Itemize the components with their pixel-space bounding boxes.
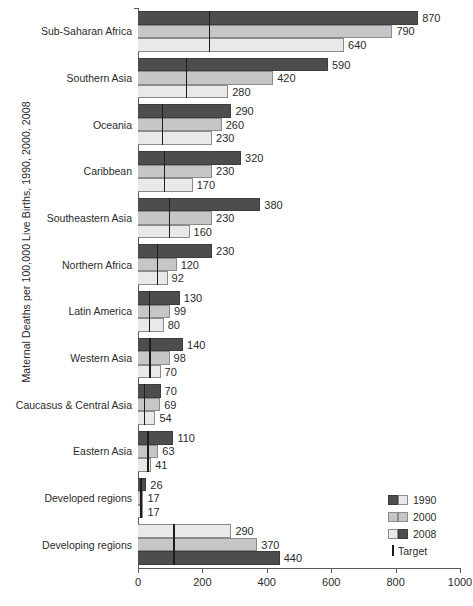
bar-2008 — [138, 225, 190, 239]
bar-row: 140 — [138, 338, 460, 352]
bar-value-label: 54 — [159, 412, 171, 424]
bar-value-label: 260 — [226, 119, 244, 131]
bar-row: 26 — [138, 478, 460, 492]
x-axis-tick — [267, 568, 268, 573]
bar-1990 — [138, 198, 260, 212]
bar-1990 — [138, 244, 212, 258]
bar-value-label: 63 — [162, 445, 174, 457]
bar-2000 — [138, 538, 257, 552]
bar-row: 99 — [138, 305, 460, 319]
bar-row: 170 — [138, 178, 460, 192]
bar-value-label: 590 — [332, 59, 350, 71]
bar-group: Southeastern Asia380230160 — [138, 198, 460, 239]
bar-value-label: 280 — [232, 86, 250, 98]
x-axis-tick-label: 1000 — [448, 576, 472, 588]
bar-value-label: 230 — [216, 245, 234, 257]
bar-1990 — [138, 151, 241, 165]
bar-1990 — [138, 11, 418, 25]
legend-swatch-1990-dark — [388, 495, 398, 505]
target-line — [140, 478, 142, 519]
bar-value-label: 130 — [184, 292, 202, 304]
legend-item-1990: 1990 — [388, 492, 436, 507]
bar-value-label: 110 — [177, 432, 195, 444]
bar-value-label: 440 — [284, 552, 302, 564]
legend-swatch-2000-b — [398, 512, 408, 522]
bar-group: Sub-Saharan Africa870790640 — [138, 11, 460, 52]
bar-row: 870 — [138, 11, 460, 25]
bar-value-label: 640 — [348, 39, 366, 51]
category-label: Eastern Asia — [73, 445, 132, 457]
legend: 1990 2000 2008 Target — [388, 492, 436, 560]
bar-value-label: 420 — [277, 72, 295, 84]
bar-2008 — [138, 411, 155, 425]
bar-2008 — [138, 85, 228, 99]
bar-value-label: 70 — [165, 366, 177, 378]
target-line — [164, 151, 166, 192]
bar-1990 — [138, 431, 173, 445]
bar-value-label: 120 — [181, 259, 199, 271]
target-line — [144, 384, 146, 425]
bar-row: 54 — [138, 411, 460, 425]
bar-row: 160 — [138, 225, 460, 239]
bar-1990 — [138, 338, 183, 352]
category-label: Southern Asia — [67, 72, 132, 84]
bar-value-label: 290 — [235, 105, 253, 117]
bar-2008 — [138, 271, 168, 285]
bar-value-label: 790 — [396, 25, 414, 37]
bar-group: Western Asia1409870 — [138, 338, 460, 379]
category-label: Developing regions — [42, 539, 132, 551]
bar-2000 — [138, 398, 160, 412]
bar-value-label: 98 — [174, 352, 186, 364]
x-axis-tick — [202, 568, 203, 573]
bar-row: 320 — [138, 151, 460, 165]
bar-value-label: 69 — [164, 399, 176, 411]
bar-1990 — [138, 551, 280, 565]
target-marker-icon — [392, 545, 394, 556]
bar-2008 — [138, 318, 164, 332]
bar-value-label: 70 — [165, 385, 177, 397]
bar-2000 — [138, 165, 212, 179]
plot-area: 02004006008001000 Sub-Saharan Africa8707… — [138, 8, 460, 568]
target-line — [149, 338, 151, 379]
target-line — [209, 11, 211, 52]
bar-group: Northern Africa23012092 — [138, 244, 460, 285]
category-label: Caucasus & Central Asia — [16, 399, 132, 411]
category-label: Caribbean — [84, 165, 132, 177]
category-label: Northern Africa — [62, 259, 132, 271]
category-label: Sub-Saharan Africa — [41, 25, 132, 37]
target-line — [186, 58, 188, 99]
x-axis-tick — [138, 568, 139, 573]
maternal-mortality-bar-chart: Maternal Deaths per 100,000 Live Births,… — [0, 0, 473, 606]
legend-item-target: Target — [388, 543, 436, 558]
bar-value-label: 17 — [147, 492, 159, 504]
bar-2000 — [138, 71, 273, 85]
x-axis-tick-label: 600 — [322, 576, 340, 588]
legend-swatch-2008-dark — [398, 529, 408, 539]
category-label: Western Asia — [70, 352, 132, 364]
bar-2008 — [138, 458, 151, 472]
bar-value-label: 230 — [216, 165, 234, 177]
legend-label-2008: 2008 — [413, 528, 436, 540]
target-line — [162, 104, 164, 145]
target-line — [157, 244, 159, 285]
bar-row: 70 — [138, 384, 460, 398]
bar-row: 290 — [138, 104, 460, 118]
x-axis-tick — [460, 568, 461, 573]
bar-row: 230 — [138, 131, 460, 145]
x-axis-tick — [331, 568, 332, 573]
bar-row: 640 — [138, 38, 460, 52]
x-axis-tick-label: 0 — [135, 576, 141, 588]
x-axis-line — [138, 568, 460, 569]
bar-value-label: 17 — [147, 506, 159, 518]
bar-group: Oceania290260230 — [138, 104, 460, 145]
legend-label-2000: 2000 — [413, 511, 436, 523]
category-label: Latin America — [68, 305, 132, 317]
legend-swatch-2008-light — [388, 529, 398, 539]
bar-value-label: 230 — [216, 132, 234, 144]
bar-row: 69 — [138, 398, 460, 412]
bar-2008 — [138, 524, 231, 538]
legend-swatch-1990-light — [398, 495, 408, 505]
category-label: Developed regions — [44, 492, 132, 504]
bar-value-label: 370 — [261, 539, 279, 551]
x-axis-tick — [396, 568, 397, 573]
